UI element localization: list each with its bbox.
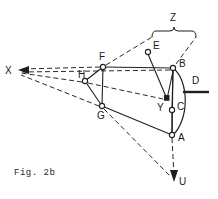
- edge-f-h: [85, 67, 103, 81]
- label-u: U: [179, 176, 186, 187]
- label-e: E: [153, 40, 160, 51]
- figure-caption: Fig. 2b: [14, 168, 55, 178]
- label-c: C: [177, 101, 184, 112]
- node-e: [145, 49, 150, 54]
- label-b: B: [179, 58, 186, 69]
- arrowhead-x-icon: [18, 66, 29, 74]
- label-h: H: [78, 69, 85, 80]
- node-y: [164, 96, 169, 101]
- z-brace: [152, 27, 196, 37]
- label-x: X: [5, 65, 12, 76]
- label-z: Z: [170, 12, 176, 23]
- vertex-markers: [82, 49, 175, 137]
- dashed-b-x: [22, 70, 170, 72]
- label-y: Y: [157, 102, 164, 113]
- node-c: [169, 107, 174, 112]
- edge-e-y: [148, 54, 167, 99]
- node-a: [169, 132, 174, 137]
- dashed-h-x: [21, 73, 82, 82]
- node-b: [170, 65, 175, 70]
- dashed-h-y: [88, 83, 163, 99]
- solid-edges: [85, 54, 173, 135]
- edge-f-b: [103, 67, 173, 68]
- label-a: A: [178, 132, 185, 143]
- node-g: [99, 103, 104, 108]
- label-g: G: [97, 110, 105, 121]
- figure-canvas: X F H G E Z B D C Y A U Fig. 2b: [0, 0, 218, 199]
- dashed-g-u: [104, 109, 170, 176]
- edge-h-g: [85, 81, 102, 106]
- node-f: [100, 64, 105, 69]
- arrowhead-u-icon: [170, 170, 178, 182]
- brace-path: [152, 27, 196, 37]
- label-f: F: [99, 51, 105, 62]
- dashed-f-x: [22, 67, 100, 69]
- label-d: D: [192, 75, 199, 86]
- dashed-lines: [21, 37, 196, 176]
- edge-f-g: [102, 67, 103, 106]
- arrowheads: [18, 66, 178, 182]
